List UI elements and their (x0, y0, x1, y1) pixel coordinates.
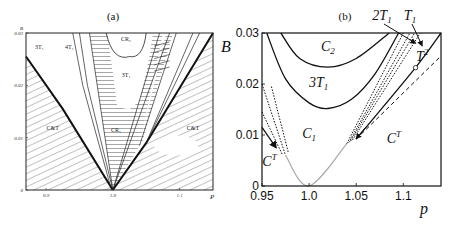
x-tick-label: 1.0 (110, 193, 117, 198)
panel-b-series (262, 33, 441, 186)
region-label: C&T (47, 125, 60, 131)
region-label: 3T1 (308, 75, 328, 92)
series-right-dot-1 (347, 33, 404, 144)
series-T2-dashed (356, 56, 441, 139)
series-C2-boundary (281, 33, 389, 67)
figure-canvas: (a) 0.91.01.1 00.010.020.03 3T₁4T₁CR₂3T₁… (0, 0, 452, 226)
panel-a-x-label: P (209, 193, 215, 201)
x-tick-label: 1.1 (176, 193, 182, 198)
y-tick-label: 0.03 (236, 26, 260, 40)
annotation-label: T1 (404, 8, 416, 25)
region-label: CT (387, 129, 402, 146)
y-tick-label: 0.02 (236, 77, 260, 91)
y-tick-label: 0 (21, 188, 24, 193)
region-label: C1 (302, 126, 316, 143)
open-circle-marker (413, 65, 417, 69)
series-right-dot-4 (352, 33, 420, 140)
series-gray-V (286, 144, 347, 186)
series-left-dot-3 (271, 87, 288, 153)
region-label: C&T (187, 125, 200, 131)
arrow-right-branch (356, 127, 365, 138)
panel-a: (a) 0.91.01.1 00.010.020.03 3T₁4T₁CR₂3T₁… (14, 10, 215, 201)
panel-b-frame (262, 33, 441, 186)
panel-a-title: (a) (107, 10, 120, 23)
y-tick-label: 0.02 (14, 83, 23, 88)
region-label: 3T₁ (35, 44, 44, 50)
region-label: T2 (416, 47, 429, 64)
panel-b-x-label: p (419, 200, 428, 218)
panel-b-y-ticks: 00.010.020.03 (236, 26, 265, 193)
x-tick-label: 1.05 (345, 189, 369, 203)
y-tick-label: 0.01 (236, 128, 260, 142)
series-3T1-boundary (267, 33, 399, 109)
region-label: CT (262, 152, 277, 169)
region-label: 3T₁ (122, 72, 131, 78)
series-right-dot-2 (349, 33, 410, 143)
region-label: CR₁ (111, 127, 121, 133)
annotation-label: 2T1 (372, 8, 391, 25)
y-tick-label: 0.01 (14, 136, 23, 141)
panel-b-y-label: B (221, 38, 231, 55)
y-tick-label: 0.03 (14, 31, 23, 36)
x-tick-label: 1.0 (301, 189, 318, 203)
region-label: 4T₁ (65, 44, 74, 50)
x-tick-label: 1.1 (395, 189, 412, 203)
panel-b: (b) 0.951.01.051.1 00.010.020.03 C23T1C1… (221, 8, 441, 218)
region-label: CR₂ (121, 36, 131, 42)
panel-a-y-label: B (20, 26, 23, 31)
series-right-dot-3 (351, 33, 415, 141)
x-tick-label: 0.9 (43, 193, 50, 198)
region-label: C2 (321, 39, 335, 56)
y-tick-label: 0 (252, 179, 259, 193)
panel-b-title: (b) (339, 10, 352, 23)
blank-blob (154, 136, 198, 156)
